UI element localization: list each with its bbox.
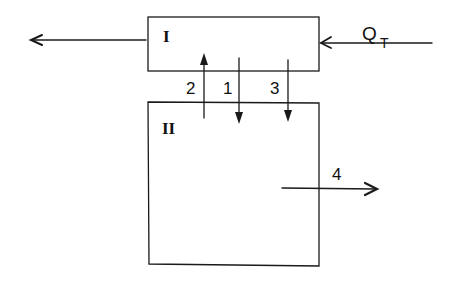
block-1-label: I (163, 27, 170, 46)
diagram-canvas: I II Q T 2 1 3 4 (0, 0, 454, 284)
flow-3-label: 3 (270, 79, 279, 98)
flow-1-label: 1 (223, 79, 232, 98)
arrowhead-down-icon (235, 112, 243, 124)
heat-input-label: Q (362, 23, 377, 44)
arrowhead-down-icon (284, 110, 292, 122)
flow-4-label: 4 (332, 165, 341, 184)
heat-input-subscript: T (380, 35, 389, 51)
flow-2-label: 2 (186, 79, 195, 98)
arrowhead-up-icon (200, 53, 208, 65)
block-1-box (148, 17, 319, 71)
flow-4-arrow (282, 188, 376, 189)
block-2-label: II (162, 119, 176, 138)
